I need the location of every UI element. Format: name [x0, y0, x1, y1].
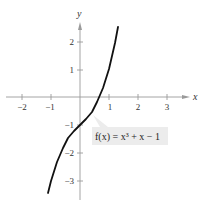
x-tick-label: −1: [45, 102, 55, 112]
y-tick-label: −2: [64, 148, 74, 158]
x-tick-label: 3: [165, 102, 170, 112]
x-tick-label: −2: [17, 102, 27, 112]
x-tick-label: 1: [108, 102, 113, 112]
x-axis-arrow-icon: [182, 95, 190, 99]
x-axis-label: x: [192, 91, 198, 102]
x-tick-label: 2: [136, 102, 141, 112]
y-tick-label: 2: [70, 37, 75, 47]
function-label: f(x) = x³ + x − 1: [95, 131, 160, 143]
function-graph: −2 −1 1 2 3 2 1 −1 −2 −3 x y f(x) = x³ +…: [0, 0, 206, 203]
y-axis-arrow-icon: [78, 22, 82, 30]
y-tick-label: 1: [70, 65, 75, 75]
y-tick-label: −3: [64, 176, 74, 186]
y-axis-label: y: [76, 8, 82, 19]
y-tick-label: −1: [64, 120, 74, 130]
